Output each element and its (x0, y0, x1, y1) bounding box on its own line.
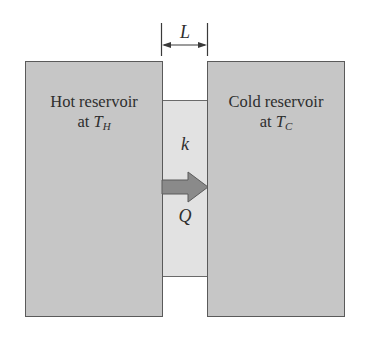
heat-flow-arrow-icon (162, 172, 208, 202)
dimension-label: L (162, 22, 208, 42)
diagram-graphics (0, 0, 367, 343)
